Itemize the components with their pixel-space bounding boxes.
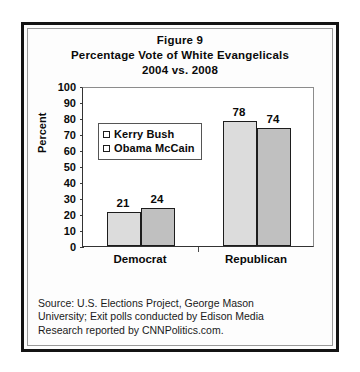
legend-swatch-icon [103, 131, 110, 138]
y-axis-title: Percent [36, 137, 48, 153]
bars-layer [83, 88, 313, 246]
y-tick-label: 50 [64, 162, 76, 173]
source-note: Source: U.S. Elections Project, George M… [38, 297, 328, 338]
y-tick-label: 0 [70, 242, 76, 253]
chart-plot-area [82, 87, 314, 247]
y-tick-label: 30 [64, 194, 76, 205]
legend-item-0: Kerry Bush [103, 127, 195, 141]
bar-value-label: 74 [256, 114, 290, 126]
y-tick-label: 10 [64, 226, 76, 237]
bar-republican-1 [257, 128, 291, 246]
y-tick-label: 80 [64, 114, 76, 125]
source-line-3: Research reported by CNNPolitics.com. [38, 324, 328, 338]
chart-legend: Kerry BushObama McCain [98, 123, 202, 160]
y-tick-label: 70 [64, 130, 76, 141]
bar-value-label: 24 [140, 194, 174, 206]
bar-republican-0 [223, 121, 257, 246]
legend-label: Kerry Bush [114, 128, 174, 140]
y-tick-label: 100 [58, 82, 76, 93]
x-category-label-democrat: Democrat [82, 253, 198, 265]
figure-title-line-2: Percentage Vote of White Evangelicals [24, 48, 336, 63]
y-axis-tick-labels: 0102030405060708090100 [50, 87, 76, 247]
figure-title-line-3: 2004 vs. 2008 [24, 63, 336, 78]
bar-democrat-0 [107, 212, 141, 246]
bar-democrat-1 [141, 208, 175, 246]
y-tick-label: 90 [64, 98, 76, 109]
bar-value-label: 78 [222, 107, 256, 119]
figure-title-line-1: Figure 9 [24, 33, 336, 48]
x-tick-mark [198, 247, 199, 252]
source-line-1: Source: U.S. Elections Project, George M… [38, 297, 328, 311]
legend-label: Obama McCain [114, 142, 195, 154]
y-tick-label: 20 [64, 210, 76, 221]
y-tick-label: 60 [64, 146, 76, 157]
figure-title-block: Figure 9 Percentage Vote of White Evange… [24, 33, 336, 78]
y-tick-label: 40 [64, 178, 76, 189]
y-tick-mark [80, 247, 84, 248]
figure-frame: Figure 9 Percentage Vote of White Evange… [21, 22, 339, 352]
source-line-2: University; Exit polls conducted by Edis… [38, 310, 328, 324]
bar-value-label: 21 [106, 198, 140, 210]
legend-item-1: Obama McCain [103, 141, 195, 155]
x-category-label-republican: Republican [198, 253, 314, 265]
chart-plot-region: Percent 0102030405060708090100 Kerry Bus… [36, 87, 328, 293]
legend-swatch-icon [103, 145, 110, 152]
